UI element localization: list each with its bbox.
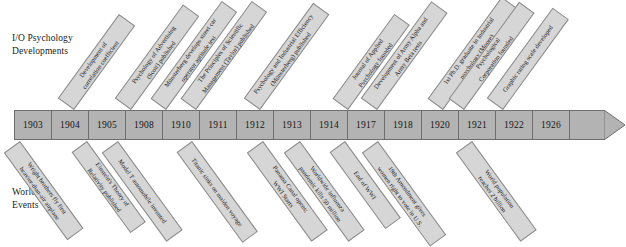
world-event-ribbon-9: World population reaches 2 billion	[456, 141, 537, 242]
timeline-year-1913: 1913	[273, 110, 311, 140]
timeline-year-1920: 1920	[421, 110, 459, 140]
timeline-year-1908: 1908	[125, 110, 163, 140]
io-psychology-section-label: I/O Psychology Developments	[12, 32, 73, 58]
world-event-ribbon-9-text: World population reaches 2 billion	[475, 167, 517, 215]
timeline-bar-tail	[569, 110, 605, 140]
timeline-year-1917: 1917	[347, 110, 385, 140]
timeline-year-1903: 1903	[14, 110, 52, 140]
timeline-year-1911: 1911	[199, 110, 237, 140]
world-event-ribbon-7-text: End of WWI	[352, 169, 379, 201]
timeline-year-1910: 1910	[162, 110, 200, 140]
timeline-year-1904: 1904	[51, 110, 89, 140]
timeline-year-1922: 1922	[495, 110, 533, 140]
timeline-arrow-icon	[604, 110, 626, 140]
timeline-year-1914: 1914	[310, 110, 348, 140]
timeline-year-1905: 1905	[88, 110, 126, 140]
timeline-year-1912: 1912	[236, 110, 274, 140]
io-development-ribbon-5-text: Psychology and Industrial Efficiency (Mü…	[251, 12, 323, 101]
timeline-year-1921: 1921	[458, 110, 496, 140]
timeline-year-1926: 1926	[532, 110, 570, 140]
timeline-bar: 1903190419051908191019111912191319141917…	[14, 110, 626, 140]
io-development-ribbon-1-text: Development of correlation coefficient	[72, 33, 121, 91]
timeline-year-1918: 1918	[384, 110, 422, 140]
world-event-ribbon-4: Titanic sinks on maiden voyage	[177, 141, 258, 243]
world-event-ribbon-4-text: Titanic sinks on maiden voyage	[189, 156, 245, 228]
